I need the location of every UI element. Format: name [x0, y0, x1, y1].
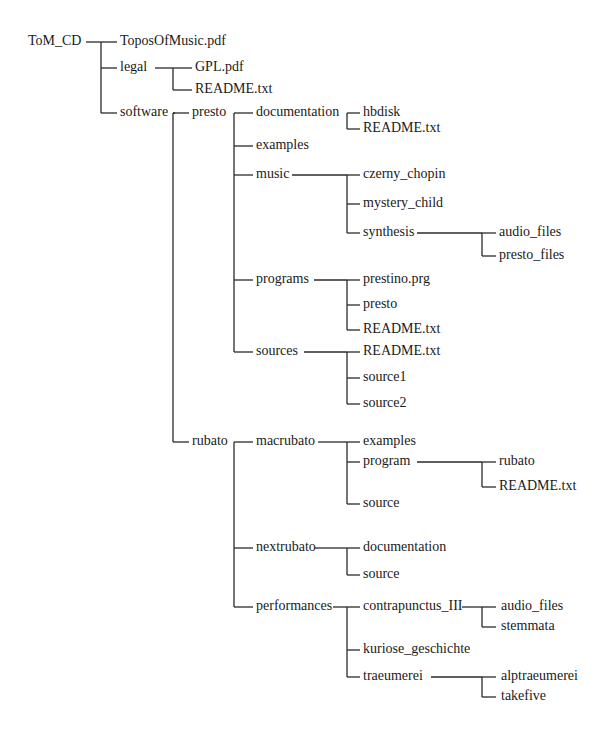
tree-node-label: stemmata [501, 619, 555, 633]
tree-node-label: presto [192, 105, 226, 119]
tree-node-label: GPL.pdf [195, 60, 244, 74]
tree-node-label: czerny_chopin [363, 167, 445, 181]
tree-node-label: kuriose_geschichte [363, 642, 470, 656]
tree-node-label: ToM_CD [28, 34, 81, 48]
directory-tree-diagram: ToM_CDToposOfMusic.pdflegalGPL.pdfREADME… [0, 0, 603, 739]
tree-node-label: audio_files [501, 599, 563, 613]
tree-node-label: programs [256, 272, 309, 286]
tree-node-label: source1 [363, 370, 407, 384]
tree-node-label: ToposOfMusic.pdf [120, 34, 226, 48]
tree-node-label: rubato [499, 454, 535, 468]
tree-node-label: documentation [363, 540, 446, 554]
tree-node-label: contrapunctus_III [363, 599, 463, 613]
tree-node-label: source2 [363, 396, 407, 410]
tree-node-label: software [120, 105, 168, 119]
tree-node-label: alptraeumerei [501, 669, 578, 683]
tree-node-label: examples [363, 434, 416, 448]
tree-node-label: performances [256, 599, 332, 613]
tree-node-label: README.txt [363, 121, 440, 135]
tree-node-label: macrubato [256, 434, 315, 448]
tree-node-label: documentation [256, 105, 339, 119]
tree-node-label: README.txt [195, 82, 272, 96]
tree-node-label: synthesis [363, 225, 414, 239]
tree-node-label: legal [120, 60, 147, 74]
tree-node-label: prestino.prg [363, 272, 430, 286]
tree-node-label: README.txt [363, 322, 440, 336]
tree-node-label: mystery_child [363, 196, 443, 210]
tree-node-label: README.txt [499, 479, 576, 493]
tree-node-label: presto [363, 297, 397, 311]
tree-node-label: audio_files [499, 225, 561, 239]
tree-node-label: sources [256, 344, 298, 358]
tree-node-label: source [363, 567, 400, 581]
tree-node-label: takefive [501, 689, 546, 703]
tree-node-label: music [256, 167, 289, 181]
tree-node-label: hbdisk [363, 105, 400, 119]
tree-node-label: presto_files [499, 248, 564, 262]
tree-node-label: program [363, 454, 410, 468]
tree-node-label: README.txt [363, 344, 440, 358]
tree-node-label: nextrubato [256, 540, 316, 554]
tree-node-label: rubato [192, 434, 228, 448]
tree-node-label: source [363, 496, 400, 510]
tree-node-label: examples [256, 138, 309, 152]
tree-node-label: traeumerei [363, 669, 423, 683]
